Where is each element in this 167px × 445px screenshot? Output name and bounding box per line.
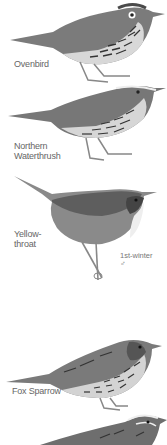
label-line-2: throat [14, 239, 41, 249]
label-line-2: Waterthrush [14, 151, 60, 161]
fox-sparrow-label: Fox Sparrow [12, 386, 61, 396]
partial-sparrow-illustration [40, 410, 167, 445]
yellowthroat-label: Yellow- throat [14, 229, 41, 249]
label-line-1: Yellow- [14, 229, 41, 239]
fox-sparrow-illustration [4, 330, 164, 412]
ovenbird-illustration [8, 2, 166, 90]
male-symbol-icon: ♂ [120, 260, 153, 268]
northern-waterthrush-label: Northern Waterthrush [14, 141, 60, 161]
age-sex-note: 1st-winter ♂ [120, 252, 153, 268]
ovenbird-label: Ovenbird [14, 59, 49, 69]
label-line-1: Northern [14, 141, 60, 151]
